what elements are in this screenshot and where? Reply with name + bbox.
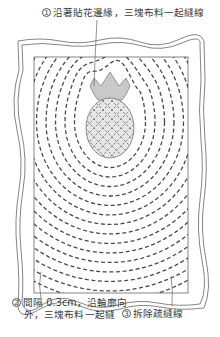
step-3-label: 3拆除疏縫線 — [122, 308, 184, 320]
step-1-text: 沿著貼花邊緣，三塊布料一起縫線 — [53, 7, 205, 18]
step-2-label: 2間隔 0.3cm，沿輪廓向 外，三塊布料一起縫 — [12, 297, 127, 321]
step-1-label: 1沿著貼花邊緣，三塊布料一起縫線 — [42, 7, 205, 19]
step-2-text-line1: 間隔 0.3cm，沿輪廓向 — [23, 297, 127, 308]
step-number: 3 — [122, 309, 131, 318]
diagram-artwork — [0, 0, 220, 337]
step-number: 2 — [12, 298, 21, 307]
quilting-diagram: 1沿著貼花邊緣，三塊布料一起縫線 2間隔 0.3cm，沿輪廓向 外，三塊布料一起… — [0, 0, 220, 337]
step-2-text-line2: 外，三塊布料一起縫 — [12, 309, 127, 321]
step-3-text: 拆除疏縫線 — [133, 308, 184, 319]
step-number: 1 — [42, 8, 51, 17]
